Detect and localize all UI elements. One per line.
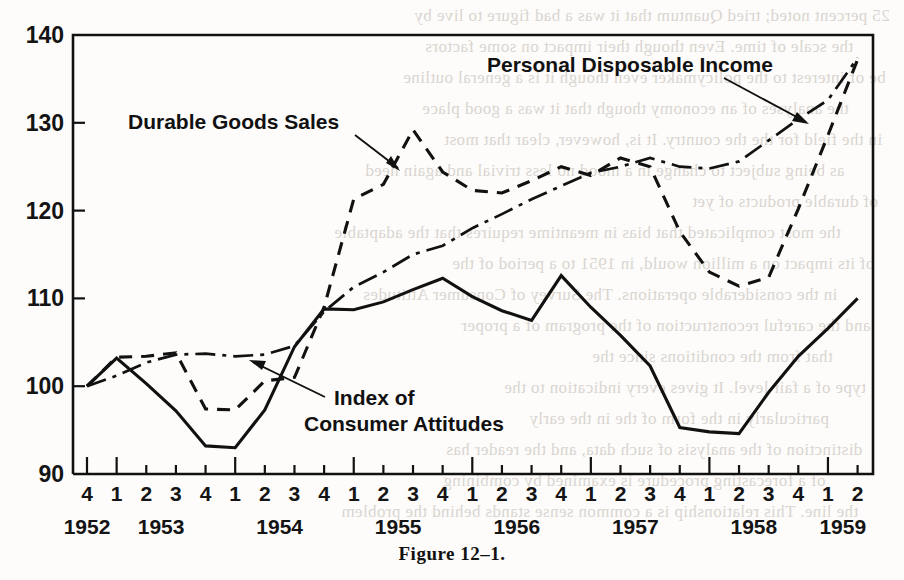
x-axis-year-label: 1954 [256, 515, 303, 538]
x-axis-quarter-label: 2 [140, 482, 152, 505]
plot-frame [73, 35, 873, 474]
annotation-durable-goods-sales: Durable Goods Sales [128, 110, 339, 133]
y-axis-tick-label: 120 [26, 198, 64, 224]
x-axis-quarter-label: 4 [318, 482, 330, 505]
x-axis-quarter-label: 4 [437, 482, 449, 505]
x-axis-ticks [87, 457, 858, 474]
annotation-arrow-durable-goods-sales [355, 135, 400, 171]
y-axis-tick-label: 140 [26, 22, 64, 48]
figure-caption: Figure 12–1. [399, 543, 506, 564]
x-axis-quarter-label: 1 [111, 482, 123, 505]
x-axis-quarter-label: 4 [792, 482, 804, 505]
x-axis-quarter-label: 2 [496, 482, 508, 505]
x-axis-year-label: 1952 [64, 515, 111, 538]
x-axis-quarter-label: 1 [348, 482, 360, 505]
annotation-arrow-personal-disposable-income [724, 78, 809, 124]
x-axis-quarter-label: 4 [81, 482, 93, 505]
x-axis-quarter-label: 1 [822, 482, 834, 505]
x-axis-quarter-label: 3 [170, 482, 182, 505]
x-axis-quarter-label: 4 [555, 482, 567, 505]
x-axis-quarter-label: 4 [674, 482, 686, 505]
figure-12-1: 25 percent noted; tried Quantum that it … [0, 0, 904, 580]
chart-canvas: 90100110120130140 4123412341234123412341… [0, 0, 904, 580]
y-axis-tick-label: 100 [26, 373, 64, 399]
x-axis-year-label: 1955 [375, 515, 422, 538]
y-axis: 90100110120130140 [26, 22, 85, 487]
x-axis-quarter-label: 1 [466, 482, 478, 505]
x-axis-quarter-label: 2 [733, 482, 745, 505]
x-axis-quarter-label: 2 [378, 482, 390, 505]
annotation-index-of-consumer-attitudes-line1: Index of [334, 386, 416, 409]
y-axis-tick-label: 130 [26, 110, 64, 136]
annotation-index-of-consumer-attitudes-line2: Consumer Attitudes [304, 412, 504, 435]
x-axis-year-label: 1956 [493, 515, 540, 538]
x-axis-year-label: 1959 [819, 515, 866, 538]
x-axis-year-label: 1953 [138, 515, 185, 538]
x-axis-year-label: 1958 [730, 515, 777, 538]
x-axis-quarter-label: 1 [229, 482, 241, 505]
x-axis-year-label: 1957 [612, 515, 659, 538]
x-axis-year-labels: 19521953195419551956195719581959 [64, 515, 866, 538]
x-axis-quarter-label: 4 [200, 482, 212, 505]
y-axis-tick-label: 110 [27, 285, 64, 311]
x-axis-quarter-label: 2 [259, 482, 271, 505]
series-line-personal-disposable-income [87, 58, 858, 386]
x-axis-quarter-labels: 412341234123412341234123412 [81, 482, 863, 505]
annotation-personal-disposable-income: Personal Disposable Income [487, 53, 773, 76]
x-axis-quarter-label: 2 [615, 482, 627, 505]
y-axis-tick-label: 90 [38, 461, 64, 487]
x-axis-quarter-label: 3 [289, 482, 301, 505]
x-axis-quarter-label: 1 [585, 482, 597, 505]
x-axis-quarter-label: 2 [852, 482, 864, 505]
x-axis-quarter-label: 3 [644, 482, 656, 505]
x-axis-quarter-label: 3 [526, 482, 538, 505]
x-axis-quarter-label: 3 [407, 482, 419, 505]
x-axis-quarter-label: 3 [763, 482, 775, 505]
x-axis-quarter-label: 1 [704, 482, 716, 505]
